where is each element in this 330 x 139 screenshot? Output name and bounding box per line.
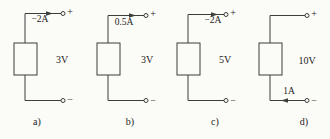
voltage-label: 5V xyxy=(219,55,231,65)
current-label: −2A xyxy=(205,16,222,26)
element-box xyxy=(14,43,37,75)
plus-sign: + xyxy=(230,8,236,18)
bottom-wire xyxy=(108,75,144,101)
minus-sign: − xyxy=(150,96,156,106)
circuit-figure: −2A + − 3V a) 0.5A + − 3V b) −2A + − 5V … xyxy=(0,0,330,139)
circuit-caption: b) xyxy=(126,117,134,127)
terminal-node-plus xyxy=(305,14,309,18)
terminal-node-plus xyxy=(144,14,148,18)
bottom-wire xyxy=(188,75,224,101)
terminal-node-minus xyxy=(144,99,148,103)
voltage-label: 3V xyxy=(141,55,153,65)
plus-sign: + xyxy=(150,9,156,19)
element-box xyxy=(97,43,120,75)
voltage-label: 3V xyxy=(56,55,68,65)
circuit-caption: a) xyxy=(33,117,41,127)
voltage-label: 10V xyxy=(298,56,315,66)
circuit-wires-layer xyxy=(0,0,330,139)
circuit-caption: d) xyxy=(300,117,308,127)
current-label: −2A xyxy=(32,15,49,25)
minus-sign: − xyxy=(230,96,236,106)
plus-sign: + xyxy=(67,7,73,17)
current-label: 1A xyxy=(283,87,295,97)
terminal-node-plus xyxy=(224,13,228,17)
terminal-node-minus xyxy=(61,99,65,103)
minus-sign: − xyxy=(67,95,73,105)
minus-sign: − xyxy=(311,96,317,106)
circuit-caption: c) xyxy=(211,117,219,127)
bottom-wire xyxy=(25,75,61,101)
terminal-node-minus xyxy=(305,99,309,103)
current-arrow-icon xyxy=(281,98,288,103)
element-box xyxy=(259,43,282,75)
terminal-node-plus xyxy=(61,12,65,16)
plus-sign: + xyxy=(311,9,317,19)
top-wire xyxy=(270,16,305,44)
terminal-node-minus xyxy=(224,99,228,103)
current-label: 0.5A xyxy=(115,18,134,28)
element-box xyxy=(177,43,200,75)
